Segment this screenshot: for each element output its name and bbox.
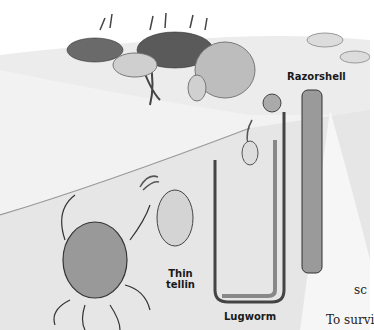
label-razorshell: Razorshell: [287, 71, 346, 82]
thin-tellin-icon: [157, 190, 193, 246]
razorshell-icon: [302, 90, 322, 273]
label-thin-tellin: Thin tellin: [166, 268, 195, 290]
label-thin-tellin-line1: Thin: [166, 268, 195, 279]
body-text-fragment-1: sc: [354, 283, 367, 297]
label-thin-tellin-line2: tellin: [166, 279, 195, 290]
label-lugworm: Lugworm: [224, 311, 276, 322]
body-text-fragment-2: To survi: [326, 313, 374, 327]
